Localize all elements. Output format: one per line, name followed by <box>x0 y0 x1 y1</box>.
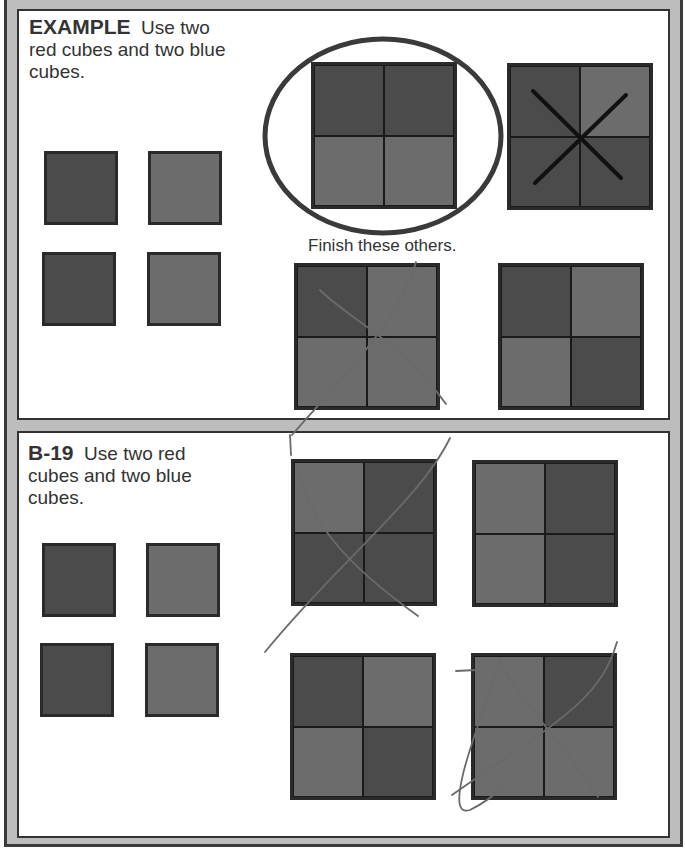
grid-cell <box>571 337 641 408</box>
b19-grid-1 <box>291 459 437 606</box>
grid-cell <box>510 66 580 137</box>
grid-cell <box>501 266 571 337</box>
b19-grid-3 <box>290 653 436 800</box>
grid-cell <box>544 656 614 727</box>
grid-cell <box>367 337 437 408</box>
example-instruction: EXAMPLE Use two red cubes and two blue c… <box>29 16 225 83</box>
grid-cell <box>364 462 434 533</box>
grid-cell <box>294 462 364 533</box>
finish-instruction: Finish these others. <box>308 236 456 256</box>
finish-grid-2 <box>498 263 644 410</box>
grid-cell <box>580 137 650 208</box>
instruction-text: cubes and two blue <box>28 465 192 487</box>
grid-cell <box>294 533 364 604</box>
loose-cube-light <box>147 252 221 326</box>
grid-cell <box>364 533 434 604</box>
grid-cell <box>384 136 454 207</box>
loose-cube-light <box>145 643 219 717</box>
grid-cell <box>501 337 571 408</box>
instruction-text: red cubes and two blue <box>29 39 225 61</box>
loose-cube-dark <box>42 252 116 326</box>
b19-grid-2 <box>472 460 618 607</box>
grid-cell <box>293 727 363 798</box>
grid-cell <box>293 656 363 727</box>
circled-grid <box>311 62 457 209</box>
grid-cell <box>475 534 545 605</box>
grid-cell <box>363 656 433 727</box>
grid-cell <box>474 727 544 798</box>
loose-cube-light <box>146 543 220 617</box>
example-label: EXAMPLE <box>29 15 131 38</box>
loose-cube-dark <box>44 151 118 225</box>
grid-cell <box>314 136 384 207</box>
grid-cell <box>475 463 545 534</box>
grid-cell <box>544 727 614 798</box>
b19-grid-4 <box>471 653 617 800</box>
grid-cell <box>384 65 454 136</box>
loose-cube-dark <box>42 543 116 617</box>
grid-cell <box>545 534 615 605</box>
grid-cell <box>474 656 544 727</box>
grid-cell <box>314 65 384 136</box>
grid-cell <box>297 337 367 408</box>
instruction-text: Use two <box>141 17 210 38</box>
loose-cube-light <box>148 151 222 225</box>
grid-cell <box>510 137 580 208</box>
instruction-text: cubes. <box>28 487 192 509</box>
grid-cell <box>363 727 433 798</box>
instruction-text: cubes. <box>29 61 225 83</box>
grid-cell <box>571 266 641 337</box>
instruction-text: Use two red <box>84 443 185 464</box>
loose-cube-dark <box>40 643 114 717</box>
b19-label: B-19 <box>28 441 74 464</box>
finish-grid-1 <box>294 263 440 410</box>
grid-cell <box>580 66 650 137</box>
grid-cell <box>297 266 367 337</box>
grid-cell <box>367 266 437 337</box>
b19-instruction: B-19 Use two red cubes and two blue cube… <box>28 442 192 509</box>
grid-cell <box>545 463 615 534</box>
crossed-grid <box>507 63 653 210</box>
